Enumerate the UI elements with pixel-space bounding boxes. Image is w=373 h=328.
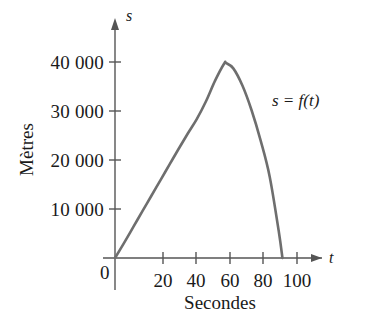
x-axis-arrow-icon (311, 254, 322, 262)
y-tick-label-30000: 30 000 (24, 102, 104, 121)
y-axis-title: Mètres (17, 102, 36, 198)
x-axis-variable-label: t (329, 250, 333, 266)
y-axis-arrow-icon (111, 18, 119, 30)
x-tick-label-100: 100 (277, 271, 317, 290)
curve-s-of-t (115, 62, 282, 258)
figure-graph-distance-vs-time: 40 000 30 000 20 000 10 000 0 20 40 60 8… (0, 0, 373, 328)
x-axis-title: Secondes (150, 293, 290, 312)
origin-label: 0 (100, 263, 110, 282)
y-axis-variable-label: s (126, 8, 132, 24)
curve-equation-label: s = f(t) (272, 92, 319, 109)
y-tick-label-40000: 40 000 (24, 53, 104, 72)
y-tick-label-10000: 10 000 (24, 200, 104, 219)
